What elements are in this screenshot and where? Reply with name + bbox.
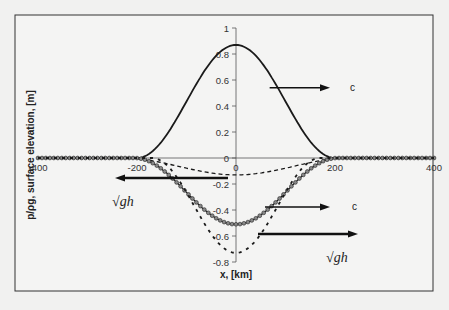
data-marker bbox=[179, 184, 183, 188]
sqrt-gh-right-label: √gh bbox=[326, 250, 348, 265]
data-marker bbox=[226, 221, 230, 225]
data-marker bbox=[234, 222, 238, 226]
data-marker bbox=[254, 216, 258, 220]
data-marker bbox=[274, 201, 278, 205]
data-marker bbox=[317, 161, 321, 165]
data-marker bbox=[313, 164, 317, 168]
data-marker bbox=[278, 197, 282, 201]
data-marker bbox=[294, 181, 298, 185]
data-marker bbox=[305, 170, 309, 174]
x-tick-label: -200 bbox=[127, 162, 146, 173]
data-marker bbox=[163, 170, 167, 174]
x-tick-label: 0 bbox=[233, 162, 238, 173]
data-marker bbox=[218, 219, 222, 223]
data-marker bbox=[428, 156, 432, 160]
x-tick-label: 200 bbox=[327, 162, 343, 173]
data-marker bbox=[151, 161, 155, 165]
data-marker bbox=[206, 211, 210, 215]
data-marker bbox=[147, 159, 151, 163]
data-marker bbox=[309, 166, 313, 170]
y-tick-label: 1 bbox=[224, 23, 229, 34]
sqrt-gh-left-label: √gh bbox=[112, 194, 134, 209]
y-tick-label: -0.2 bbox=[213, 179, 229, 190]
data-marker bbox=[258, 214, 262, 218]
x-tick-label: 400 bbox=[426, 162, 442, 173]
data-marker bbox=[210, 214, 214, 218]
y-tick-label: -0.6 bbox=[213, 231, 229, 242]
data-marker bbox=[246, 220, 250, 224]
data-marker bbox=[175, 181, 179, 185]
chart-figure: 10.80.60.40.20-0.2-0.4-0.6-0.8-400-20002… bbox=[0, 0, 449, 310]
data-marker bbox=[242, 221, 246, 225]
data-marker bbox=[191, 197, 195, 201]
data-marker bbox=[250, 219, 254, 223]
data-marker bbox=[290, 184, 294, 188]
data-marker bbox=[159, 166, 163, 170]
c-upper-label: c bbox=[350, 82, 355, 93]
y-axis-title: p/ρg, surface elevation, [m] bbox=[25, 90, 36, 220]
data-marker bbox=[222, 220, 226, 224]
data-marker bbox=[230, 222, 234, 226]
data-marker bbox=[167, 173, 171, 177]
y-tick-label: 0.2 bbox=[216, 127, 229, 138]
data-marker bbox=[420, 156, 424, 160]
data-marker bbox=[195, 201, 199, 205]
data-marker bbox=[155, 164, 159, 168]
c-lower-label: c bbox=[352, 201, 357, 212]
y-tick-label: -0.4 bbox=[213, 205, 229, 216]
data-marker bbox=[202, 208, 206, 212]
y-tick-label: -0.8 bbox=[213, 257, 229, 268]
y-tick-label: 0.6 bbox=[216, 75, 229, 86]
y-tick-label: 0.4 bbox=[216, 101, 229, 112]
x-axis-title: x, [km] bbox=[220, 269, 252, 280]
data-marker bbox=[266, 208, 270, 212]
data-marker bbox=[238, 222, 242, 226]
y-tick-label: 0 bbox=[224, 153, 229, 164]
data-marker bbox=[262, 211, 266, 215]
data-marker bbox=[321, 159, 325, 163]
data-marker bbox=[298, 177, 302, 181]
data-marker bbox=[214, 216, 218, 220]
data-marker bbox=[301, 173, 305, 177]
data-marker bbox=[199, 204, 203, 208]
